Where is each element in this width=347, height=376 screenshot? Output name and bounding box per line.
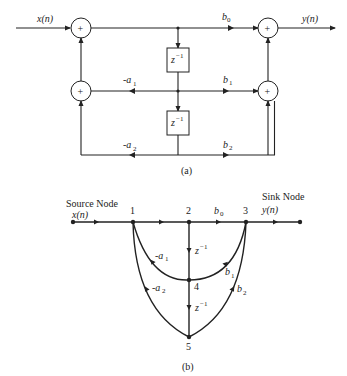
node-4-label: 4 — [194, 281, 199, 292]
adder-symbol: + — [78, 86, 84, 97]
adder-symbol: + — [78, 23, 84, 34]
svg-text:−1: −1 — [176, 52, 184, 60]
adder-symbol: + — [265, 23, 271, 34]
node-1-label: 1 — [130, 205, 135, 216]
delay-label-4-5: z −1 — [194, 300, 208, 313]
svg-text:b: b — [223, 139, 228, 150]
source-signal-label: x(n) — [71, 209, 89, 221]
sink-node — [298, 220, 302, 224]
svg-text:1: 1 — [231, 272, 235, 280]
b1-arrow — [223, 88, 229, 94]
svg-text:2: 2 — [133, 145, 137, 153]
svg-text:2: 2 — [243, 289, 247, 297]
gain-a1-label: -a 1 — [155, 250, 169, 263]
svg-text:1: 1 — [165, 255, 169, 263]
gain-a2-label: -a 2 — [152, 282, 166, 295]
input-label: x(n) — [36, 13, 54, 25]
gain-b1-label: b 1 — [223, 74, 233, 87]
svg-text:0: 0 — [227, 16, 231, 24]
adder-symbol: + — [265, 86, 271, 97]
caption-a: (a) — [181, 165, 192, 177]
gain-a2-label: -a 2 — [123, 139, 137, 153]
svg-text:−1: −1 — [176, 115, 184, 123]
sink-node-label: Sink Node — [262, 191, 305, 202]
signal-flow-diagrams: x(n) + b 0 + y(n) z −1 + -a — [0, 0, 347, 376]
svg-text:-a: -a — [123, 139, 131, 150]
node-2-label: 2 — [186, 205, 191, 216]
a1-arrow — [129, 88, 135, 94]
gain-b2-label: b 2 — [237, 283, 247, 297]
sink-signal-label: y(n) — [261, 204, 279, 216]
svg-text:−1: −1 — [200, 243, 208, 251]
block-diagram-a: x(n) + b 0 + y(n) z −1 + -a — [16, 11, 335, 177]
svg-text:2: 2 — [162, 287, 166, 295]
svg-text:0: 0 — [220, 210, 224, 218]
svg-text:z: z — [194, 302, 199, 313]
gain-a1-label: -a 1 — [123, 74, 137, 88]
node-3-label: 3 — [243, 205, 248, 216]
svg-text:-a: -a — [152, 282, 160, 293]
node-5-label: 5 — [186, 341, 191, 352]
svg-text:b: b — [237, 283, 242, 294]
caption-b: (b) — [182, 361, 194, 373]
svg-text:z: z — [170, 117, 175, 128]
gain-b0-label: b 0 — [214, 205, 224, 218]
source-node-label: Source Node — [66, 198, 118, 209]
svg-text:b: b — [223, 74, 228, 85]
svg-text:−1: −1 — [200, 300, 208, 308]
svg-text:z: z — [194, 245, 199, 256]
svg-text:-a: -a — [123, 74, 131, 85]
delay-label-2-4: z −1 — [194, 243, 208, 256]
output-label: y(n) — [301, 13, 319, 25]
svg-text:1: 1 — [133, 80, 137, 88]
signal-flow-graph-b: Source Node x(n) Sink Node y(n) 1 2 3 4 … — [66, 191, 305, 373]
gain-b2-label: b 2 — [223, 139, 233, 152]
svg-text:-a: -a — [155, 250, 163, 261]
svg-text:1: 1 — [229, 79, 233, 87]
gain-b0-label: b 0 — [222, 11, 231, 24]
b0-arrow — [228, 25, 234, 31]
svg-text:b: b — [225, 266, 230, 277]
b2-arrow — [223, 152, 229, 158]
source-node — [71, 220, 75, 224]
svg-text:z: z — [170, 54, 175, 65]
gain-b1-label: b 1 — [225, 266, 235, 280]
svg-text:2: 2 — [229, 144, 233, 152]
svg-text:b: b — [214, 205, 219, 216]
